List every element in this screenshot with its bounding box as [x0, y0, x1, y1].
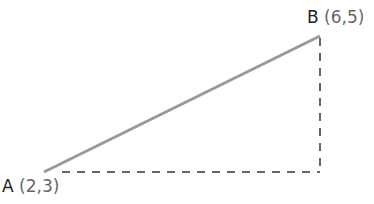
hypotenuse-line [44, 36, 320, 172]
point-a-coords: (2,3) [19, 176, 59, 196]
point-b-name: B [307, 7, 319, 27]
triangle-diagram [0, 0, 374, 204]
point-b-label: B (6,5) [307, 7, 364, 27]
point-b-coords: (6,5) [324, 7, 364, 27]
point-a-label: A (2,3) [2, 176, 59, 196]
point-a-name: A [2, 176, 14, 196]
